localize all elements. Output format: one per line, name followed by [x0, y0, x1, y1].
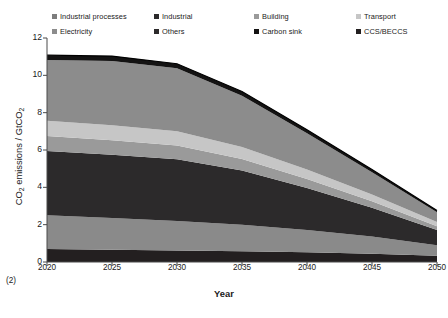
x-tick-label: 2045	[352, 264, 392, 272]
x-tick-label: 2040	[287, 264, 327, 272]
x-tick-label: 2035	[222, 264, 262, 272]
chart-figure: Industrial processes Industrial Building…	[0, 0, 448, 318]
x-tick-label: 2025	[92, 264, 132, 272]
y-axis-title-text: CO2 emissions / GtCO2	[13, 108, 24, 206]
x-tick-label: 2020	[27, 264, 67, 272]
x-tick-label: 2030	[157, 264, 197, 272]
y-axis-title: CO2 emissions / GtCO2	[13, 41, 26, 271]
corner-note: (2)	[6, 276, 16, 285]
x-axis-title: Year	[0, 288, 448, 299]
x-tick-label: 2050	[417, 264, 448, 272]
stacked-areas	[47, 55, 437, 262]
y-tick-label: 12	[20, 33, 42, 42]
